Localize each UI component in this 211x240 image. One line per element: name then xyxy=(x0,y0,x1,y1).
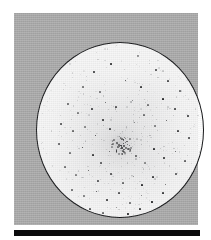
plate-speckle xyxy=(146,164,147,165)
plate-speckle xyxy=(93,191,94,192)
plate-speckle xyxy=(129,178,130,179)
plate-speckle xyxy=(106,128,107,129)
point-source xyxy=(147,104,148,105)
point-source xyxy=(110,63,111,64)
plate-speckle xyxy=(83,70,84,71)
plate-speckle xyxy=(98,181,99,182)
point-source xyxy=(93,71,94,72)
point-source xyxy=(116,207,117,208)
plate-speckle xyxy=(63,83,64,84)
plate-speckle xyxy=(176,96,177,97)
plate-speckle xyxy=(47,101,48,102)
point-source xyxy=(177,130,178,131)
plate-speckle xyxy=(127,162,128,163)
plate-speckle xyxy=(83,143,84,144)
plate-speckle xyxy=(110,208,111,209)
plate-speckle xyxy=(188,99,189,100)
plate-speckle xyxy=(186,80,187,81)
plate-speckle xyxy=(132,162,133,163)
plate-speckle xyxy=(97,123,98,124)
plate-speckle xyxy=(154,183,155,184)
point-source xyxy=(96,191,97,192)
plate-speckle xyxy=(89,198,90,199)
plate-speckle xyxy=(125,208,126,209)
plate-speckle xyxy=(49,98,50,99)
plate-speckle xyxy=(154,92,155,93)
plate-speckle xyxy=(101,139,102,140)
plate-speckle xyxy=(103,140,104,141)
cluster-point-source xyxy=(120,148,121,149)
plate-speckle xyxy=(66,178,67,179)
plate-speckle xyxy=(52,165,53,166)
plate-speckle xyxy=(63,89,64,90)
plate-speckle xyxy=(147,141,148,142)
plate-speckle xyxy=(73,105,74,106)
plate-speckle xyxy=(86,113,87,114)
plate-speckle xyxy=(106,149,107,150)
plate-speckle xyxy=(130,198,131,199)
plate-speckle xyxy=(194,124,195,125)
point-source xyxy=(165,184,166,185)
plate-speckle xyxy=(48,110,49,111)
plate-speckle xyxy=(72,77,73,78)
plate-speckle xyxy=(72,72,73,73)
cluster-point-source xyxy=(113,139,115,141)
plate-speckle xyxy=(121,166,122,167)
plate-speckle xyxy=(191,163,192,164)
point-source xyxy=(174,108,175,109)
point-source xyxy=(60,123,61,124)
plate-speckle xyxy=(59,131,60,132)
plate-speckle xyxy=(175,168,176,169)
cluster-point-source xyxy=(117,146,119,148)
plate-speckle xyxy=(126,202,127,203)
plate-speckle xyxy=(145,71,146,72)
plate-speckle xyxy=(141,133,142,134)
plate-speckle xyxy=(197,145,198,146)
point-source xyxy=(163,157,164,158)
plate-speckle xyxy=(156,119,157,120)
plate-speckle xyxy=(141,144,142,145)
plate-speckle xyxy=(104,48,105,49)
plate-speckle xyxy=(72,115,73,116)
point-source xyxy=(153,148,154,149)
plate-speckle xyxy=(109,163,110,164)
plate-speckle xyxy=(86,76,87,77)
plate-speckle xyxy=(106,171,107,172)
point-source xyxy=(166,120,167,121)
plate-speckle xyxy=(95,91,96,92)
plate-speckle xyxy=(144,99,145,100)
point-source xyxy=(88,170,89,171)
plate-speckle xyxy=(138,111,139,112)
cluster-point-source xyxy=(125,138,126,139)
plate-speckle xyxy=(125,130,126,131)
plate-speckle xyxy=(105,168,106,169)
plate-speckle xyxy=(64,127,65,128)
plate-speckle xyxy=(118,172,119,173)
point-source xyxy=(129,202,130,203)
plate-speckle xyxy=(122,133,123,134)
plate-speckle xyxy=(149,145,150,146)
point-source xyxy=(82,147,83,148)
plate-speckle xyxy=(139,198,140,199)
plate-speckle xyxy=(193,126,194,127)
point-source xyxy=(106,199,107,200)
plate-speckle xyxy=(81,177,82,178)
plate-speckle xyxy=(140,108,141,109)
plate-speckle xyxy=(116,45,117,46)
plate-speckle xyxy=(156,203,157,204)
plate-speckle xyxy=(99,166,100,167)
plate-speckle xyxy=(128,196,129,197)
plate-speckle xyxy=(111,179,112,180)
plate-speckle xyxy=(87,166,88,167)
plate-speckle xyxy=(95,184,96,185)
plate-speckle xyxy=(96,52,97,53)
plate-speckle xyxy=(63,122,64,123)
plate-speckle xyxy=(111,117,112,118)
point-source xyxy=(184,160,185,161)
plate-speckle xyxy=(201,144,202,145)
plate-speckle xyxy=(43,127,44,128)
plate-speckle xyxy=(130,101,131,102)
plate-speckle xyxy=(122,188,123,189)
central-cluster-core xyxy=(111,135,133,155)
plate-speckle xyxy=(133,214,134,215)
